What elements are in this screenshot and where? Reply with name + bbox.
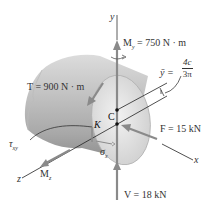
diagram-graphics: [0, 0, 217, 209]
tau-label: τxy: [9, 139, 18, 151]
x-axis-extension: [162, 144, 193, 160]
diagram-canvas: y x z My = 750 N · m ȳ = 4c 3π T = 900 N…: [0, 0, 217, 209]
cylinder: [25, 55, 156, 169]
Mz-label: Mz: [40, 169, 51, 181]
point-upper: [115, 108, 119, 112]
x-axis-label: x: [194, 155, 198, 165]
point-C: [115, 122, 119, 126]
sigma-label: σx: [100, 147, 108, 159]
V-label: V = 18 kN: [124, 190, 166, 200]
My-arrowhead-icon: [113, 40, 121, 50]
y-axis-label: y: [110, 12, 114, 22]
ybar-fraction: 4c 3π: [182, 58, 193, 79]
z-axis-label: z: [17, 174, 21, 184]
ybar-leader: [165, 76, 181, 93]
K-label: K: [94, 120, 101, 130]
ybar-label: ȳ =: [160, 68, 174, 78]
T-label: T = 900 N · m: [27, 82, 84, 92]
C-label: C: [108, 112, 115, 122]
My-label: My = 750 N · m: [123, 38, 186, 50]
F-label: F = 15 kN: [160, 124, 201, 134]
Mz-arrowhead-icon: [40, 159, 49, 167]
Mz-arrow-shaft: [46, 150, 70, 163]
